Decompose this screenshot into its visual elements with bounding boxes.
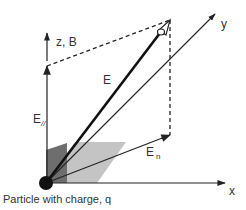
- particle-dot: [39, 176, 53, 190]
- e-vector-tip-ring: [158, 29, 165, 35]
- e-parallel-main: E: [33, 112, 41, 126]
- z-axis-label: z, B: [56, 35, 77, 49]
- e-normal-sub: n: [156, 152, 160, 161]
- e-normal-main: E: [146, 145, 154, 159]
- field-decomposition-diagram: z, B y x E E// En Particle with charge, …: [0, 0, 246, 210]
- e-normal-label: En: [146, 145, 160, 161]
- e-vector-label: E: [103, 73, 111, 87]
- e-parallel-sub: //: [40, 119, 46, 128]
- x-axis-label: x: [229, 184, 235, 198]
- y-axis-label: y: [221, 17, 227, 31]
- e-parallel-label: E//: [33, 112, 46, 128]
- particle-caption: Particle with charge, q: [3, 193, 111, 205]
